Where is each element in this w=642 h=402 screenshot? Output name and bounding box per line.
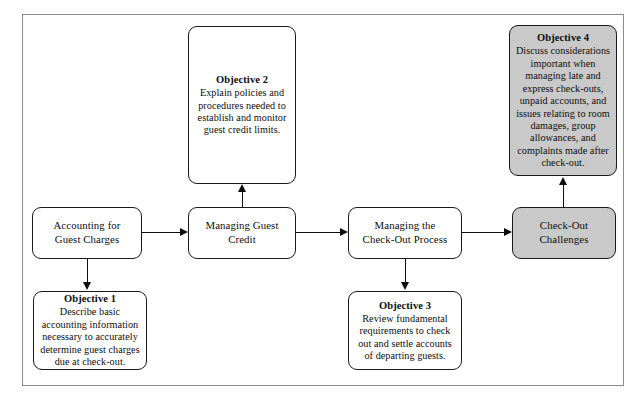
process-node-managing-guest-credit-line1: Managing Guest [205,219,278,233]
arrow-accounting-to-objective1-head [83,282,91,290]
objective-2-title: Objective 2 [216,73,268,86]
objective-4-title: Objective 4 [537,31,589,44]
arrow-checkout-to-challenges-head [504,228,512,236]
arrow-credit-to-objective2-head [238,184,246,192]
arrow-accounting-to-objective1-line [87,259,88,283]
objective-2-box: Objective 2 Explain policies and procedu… [188,26,296,184]
arrow-credit-to-checkout-line [296,232,340,233]
objective-3-title: Objective 3 [379,299,431,312]
arrow-challenges-to-objective4-line [563,184,564,208]
process-node-accounting: Accounting for Guest Charges [32,207,142,259]
process-node-check-out-challenges: Check-Out Challenges [512,207,616,259]
process-node-check-out-challenges-line2: Challenges [540,233,589,247]
objective-3-body: Review fundamental requirements to check… [354,313,456,363]
objective-3-box: Objective 3 Review fundamental requireme… [348,291,462,370]
objective-2-body: Explain policies and procedures needed t… [194,87,290,137]
process-node-managing-guest-credit: Managing Guest Credit [188,207,296,259]
arrow-checkout-to-objective3-line [405,259,406,283]
process-node-accounting-line2: Guest Charges [55,233,119,247]
process-node-check-out-challenges-line1: Check-Out [540,219,588,233]
arrow-checkout-to-objective3-head [401,282,409,290]
process-node-managing-check-out-process-line1: Managing the [375,219,436,233]
arrow-credit-to-objective2-line [242,191,243,208]
objective-1-title: Objective 1 [64,292,116,305]
objective-4-box: Objective 4 Discuss considerations impor… [509,25,617,176]
objective-1-box: Objective 1 Describe basic accounting in… [33,291,147,370]
process-node-managing-guest-credit-line2: Credit [228,233,256,247]
arrow-challenges-to-objective4-head [559,177,567,185]
process-node-managing-check-out-process: Managing the Check-Out Process [348,207,462,259]
diagram-canvas: Objective 2 Explain policies and procedu… [0,0,642,402]
process-node-managing-check-out-process-line2: Check-Out Process [363,233,448,247]
objective-1-body: Describe basic accounting information ne… [39,306,141,368]
arrow-checkout-to-challenges-line [462,232,504,233]
arrow-accounting-to-credit-head [180,228,188,236]
process-node-accounting-line1: Accounting for [53,219,120,233]
objective-4-body: Discuss considerations important when ma… [515,45,611,169]
arrow-credit-to-checkout-head [340,228,348,236]
arrow-accounting-to-credit-line [142,232,180,233]
